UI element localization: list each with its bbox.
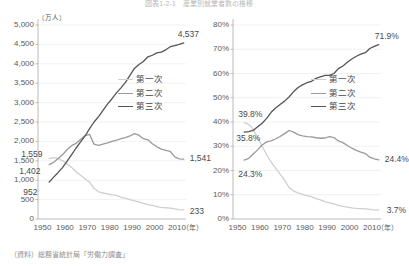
data-point-label: 1,559 [21, 150, 42, 159]
legend-item-1[interactable]: 第一次 [311, 75, 356, 84]
legend-item-3[interactable]: 第三次 [311, 102, 356, 111]
legend-item-label: 第一次 [329, 75, 356, 84]
figure-title: 図表1-2-1 産業別就業者数の推移 [0, 0, 398, 7]
data-point-label: 35.8% [236, 134, 260, 143]
legend-line-swatch-icon [311, 106, 326, 107]
data-point-label: 952 [23, 188, 37, 197]
source-note: （資料）総務省統計局「労働力調査」 [10, 249, 129, 259]
chart-panel-employment-share: 80%70%60%50%40%30%20%10%0% 1950196019701… [199, 7, 398, 242]
data-point-label: 3.7% [387, 206, 406, 215]
legend-left: 第一次第二次第三次 [118, 75, 163, 116]
legend-line-swatch-icon [118, 106, 133, 107]
legend-item-label: 第三次 [136, 102, 163, 111]
data-point-label: 24.4% [385, 155, 409, 164]
chart-panel-employment-count: （万人） 5,0004,5004,0003,5003,0002,5002,000… [0, 7, 199, 242]
legend-item-label: 第三次 [329, 102, 356, 111]
legend-item-3[interactable]: 第三次 [118, 102, 163, 111]
legend-item-2[interactable]: 第二次 [118, 89, 163, 98]
legend-item-label: 第一次 [136, 75, 163, 84]
legend-right: 第一次第二次第三次 [311, 75, 356, 116]
legend-item-2[interactable]: 第二次 [311, 89, 356, 98]
plot-area-right [199, 7, 398, 242]
plot-area-left [0, 7, 199, 242]
legend-line-swatch-icon [118, 79, 133, 80]
data-point-label: 4,537 [178, 30, 199, 39]
legend-line-swatch-icon [311, 93, 326, 94]
legend-item-label: 第二次 [329, 89, 356, 98]
legend-line-swatch-icon [311, 79, 326, 80]
legend-item-1[interactable]: 第一次 [118, 75, 163, 84]
legend-item-label: 第二次 [136, 89, 163, 98]
legend-line-swatch-icon [118, 93, 133, 94]
data-point-label: 39.8% [238, 110, 262, 119]
data-point-label: 71.9% [375, 32, 399, 41]
data-point-label: 1,402 [19, 167, 40, 176]
data-point-label: 24.3% [238, 170, 262, 179]
